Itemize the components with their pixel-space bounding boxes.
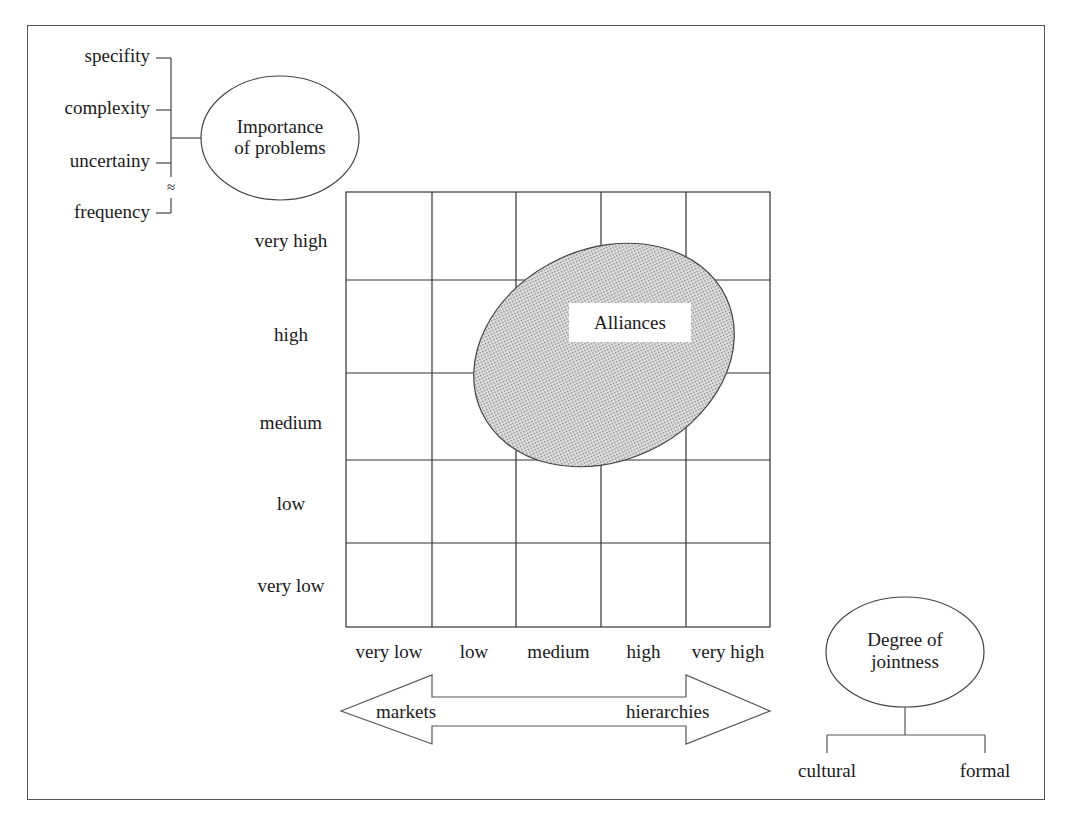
y-axis-label: very high (245, 230, 337, 252)
importance-node-line2: of problems (201, 137, 359, 159)
jointness-child-label: cultural (782, 760, 872, 782)
factor-label: uncertainy (40, 150, 150, 172)
markets-label: markets (376, 701, 436, 723)
jointness-child-label: formal (945, 760, 1025, 782)
jointness-tree (827, 707, 985, 753)
factor-label: complexity (40, 97, 150, 119)
approx-icon: ≈ (163, 176, 179, 198)
diagram-graphics (0, 0, 1074, 818)
x-axis-label: high (601, 641, 686, 663)
x-axis-label: very high (681, 641, 775, 663)
x-axis-label: very low (346, 641, 432, 663)
jointness-node-line2: jointness (826, 651, 984, 673)
jointness-node-line1: Degree of (826, 629, 984, 651)
x-axis-label: low (432, 641, 516, 663)
factor-label: specifity (40, 45, 150, 67)
y-axis-label: low (245, 493, 337, 515)
hierarchies-label: hierarchies (626, 701, 709, 723)
importance-node-line1: Importance (201, 116, 359, 138)
alliances-region (437, 202, 771, 508)
y-axis-label: very low (245, 575, 337, 597)
alliances-label: Alliances (569, 312, 691, 334)
y-axis-label: high (245, 324, 337, 346)
y-axis-label: medium (245, 412, 337, 434)
x-axis-label: medium (516, 641, 601, 663)
factor-label: frequency (40, 201, 150, 223)
